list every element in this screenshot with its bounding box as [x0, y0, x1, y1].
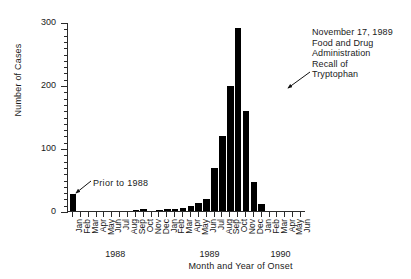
x-tick — [96, 212, 97, 217]
annotation-prior-to-1988: Prior to 1988 — [93, 178, 148, 188]
x-month-label: Jun — [303, 219, 312, 233]
x-tick — [182, 212, 183, 217]
x-tick — [174, 212, 175, 217]
x-tick — [198, 212, 199, 217]
x-tick — [80, 212, 81, 217]
x-tick — [103, 212, 104, 217]
x-tick — [221, 212, 222, 217]
x-axis-label: Month and Year of Onset — [0, 261, 411, 271]
y-tick-label: 200 — [28, 81, 56, 90]
y-tick-label: 300 — [28, 18, 56, 27]
x-tick — [284, 212, 285, 217]
bar — [242, 111, 250, 212]
bar — [218, 136, 226, 212]
x-tick — [237, 212, 238, 217]
x-tick — [261, 212, 262, 217]
x-tick — [151, 212, 152, 217]
x-tick — [127, 212, 128, 217]
y-tick-major — [61, 23, 68, 24]
x-tick — [229, 212, 230, 217]
annotation-line: Food and Drug — [312, 38, 393, 49]
y-axis-label: Number of Cases — [13, 20, 23, 140]
x-tick — [143, 212, 144, 217]
annotation-line: Recall of — [312, 59, 393, 70]
bar — [250, 182, 258, 212]
annotation-line: November 17, 1989 — [312, 27, 393, 38]
y-tick-major — [61, 149, 68, 150]
y-tick-major — [61, 86, 68, 87]
chart-figure: Number of Cases 0100200300 JanFebMarAprM… — [0, 0, 411, 279]
x-year-label: 1988 — [95, 249, 135, 259]
x-tick — [300, 212, 301, 217]
x-tick — [119, 212, 120, 217]
x-tick — [88, 212, 89, 217]
x-tick — [166, 212, 167, 217]
x-year-label: 1990 — [260, 249, 300, 259]
x-tick — [206, 212, 207, 217]
x-tick — [190, 212, 191, 217]
y-tick-label: 0 — [28, 207, 56, 216]
x-tick — [135, 212, 136, 217]
bar — [210, 168, 218, 212]
y-tick-labels: 0100200300 — [26, 0, 56, 279]
annotation-line: Tryptophan — [312, 69, 393, 80]
x-year-label: 1989 — [190, 249, 230, 259]
x-tick — [292, 212, 293, 217]
x-tick — [72, 212, 73, 217]
x-tick — [111, 212, 112, 217]
bar — [226, 86, 234, 212]
x-tick — [245, 212, 246, 217]
x-tick — [276, 212, 277, 217]
annotation-fda-recall: November 17, 1989Food and DrugAdministra… — [312, 27, 393, 80]
x-tick — [158, 212, 159, 217]
x-tick — [269, 212, 270, 217]
y-tick-major — [61, 212, 68, 213]
bar — [234, 28, 242, 212]
bar — [69, 194, 77, 212]
y-tick-label: 100 — [28, 144, 56, 153]
annotation-line: Administration — [312, 48, 393, 59]
x-tick — [214, 212, 215, 217]
x-tick — [253, 212, 254, 217]
